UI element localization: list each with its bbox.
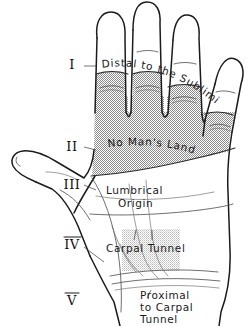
zone-numeral-5: V (66, 293, 77, 308)
zone-5-label-line1: Proximal (140, 289, 190, 301)
zone-3-label-line2: Origin (118, 197, 153, 209)
hand-zones-figure: I II III IV V Distal to the Sublimis No … (0, 0, 248, 326)
zone-5-label-line3: Tunnel (139, 313, 178, 325)
zone-3-label-line1: Lumbrical (106, 184, 163, 196)
zone-numeral-3: III (64, 177, 81, 192)
zone-4-label: Carpal Tunnel (106, 242, 185, 254)
hand-anatomy-diagram: I II III IV V Distal to the Sublimis No … (0, 0, 248, 326)
zone-numeral-2: II (66, 139, 77, 154)
zone-numerals: I II III IV V (64, 57, 81, 308)
zone-5-label-line2: to Carpal (140, 301, 193, 313)
zone-numeral-1: I (69, 57, 75, 72)
zone-numeral-4: IV (64, 237, 80, 252)
